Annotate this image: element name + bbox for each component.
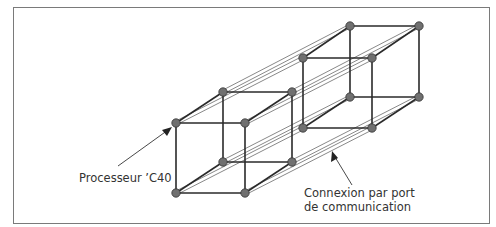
processor-node	[219, 88, 227, 96]
processor-node	[219, 158, 227, 166]
processor-arrow-head-icon	[162, 127, 172, 136]
port-link	[223, 28, 350, 94]
processor-label: Processeur ’C40	[79, 172, 172, 185]
port-link	[292, 24, 419, 90]
processor-node	[172, 119, 180, 127]
cube-edge	[176, 92, 223, 123]
processor-node	[299, 54, 307, 62]
cube-edge	[245, 162, 292, 193]
connection-label-line2: de communication	[304, 201, 411, 214]
processor-node	[346, 22, 354, 30]
hypercube-diagram	[0, 0, 496, 227]
cube-edge	[372, 26, 419, 58]
cube-edge	[245, 92, 292, 123]
processor-arrow	[118, 130, 168, 166]
processor-node	[415, 22, 423, 30]
processor-node	[368, 124, 376, 132]
port-link	[292, 28, 419, 94]
connection-arrow	[335, 157, 352, 185]
processor-node	[415, 93, 423, 101]
processor-node	[368, 54, 376, 62]
processor-node	[346, 93, 354, 101]
processor-node	[241, 189, 249, 197]
cube-edge	[303, 97, 350, 128]
cube-edge	[372, 97, 419, 128]
cube-edge	[303, 26, 350, 58]
processor-node	[241, 119, 249, 127]
port-link	[223, 24, 350, 90]
processor-node	[299, 124, 307, 132]
processor-node	[288, 88, 296, 96]
processor-node	[288, 158, 296, 166]
cube-edge	[176, 162, 223, 193]
processor-node	[172, 189, 180, 197]
connection-label-line1: Connexion par port	[304, 187, 415, 200]
